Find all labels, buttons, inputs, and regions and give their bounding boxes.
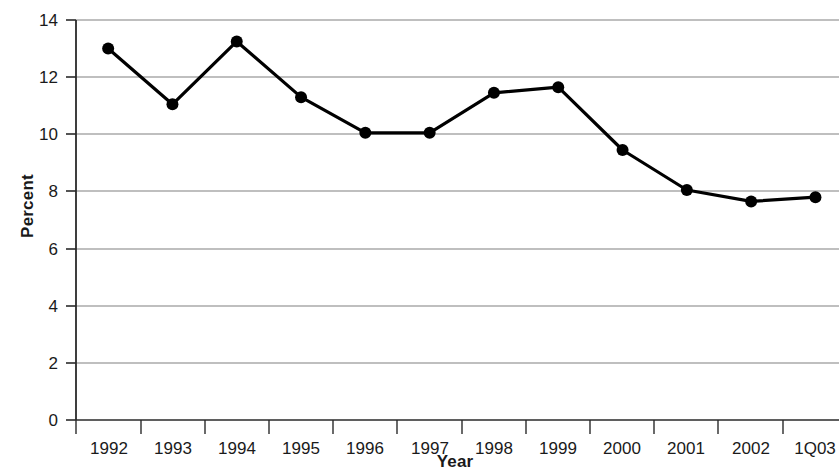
y-tick-label-2: 2 — [14, 355, 58, 372]
gridlines — [76, 20, 839, 363]
line-chart: 14 12 10 8 6 4 2 0 1992 1993 1994 1995 1… — [0, 0, 839, 476]
data-point — [552, 81, 564, 93]
x-tick-label-1992: 1992 — [74, 440, 144, 457]
x-tick-label-1993: 1993 — [138, 440, 208, 457]
data-point — [617, 144, 629, 156]
y-axis-title: Percent — [18, 161, 38, 251]
data-point — [295, 91, 307, 103]
data-point — [809, 191, 821, 203]
data-line-percent — [108, 41, 815, 201]
data-point — [102, 43, 114, 55]
axes — [76, 20, 839, 420]
x-tick-label-1999: 1999 — [523, 440, 593, 457]
x-tick-label-1995: 1995 — [266, 440, 336, 457]
x-axis-ticks — [76, 420, 783, 434]
data-point — [681, 184, 693, 196]
x-tick-label-1Q03: 1Q03 — [780, 440, 839, 457]
x-axis-title: Year — [410, 452, 500, 472]
y-tick-label-14: 14 — [14, 12, 58, 29]
y-tick-label-10: 10 — [14, 126, 58, 143]
data-point — [166, 98, 178, 110]
chart-canvas — [0, 0, 839, 476]
x-tick-label-1994: 1994 — [202, 440, 272, 457]
x-tick-label-2001: 2001 — [651, 440, 721, 457]
y-axis-ticks — [66, 20, 76, 420]
data-point — [231, 35, 243, 47]
data-point — [424, 127, 436, 139]
y-tick-label-12: 12 — [14, 69, 58, 86]
y-tick-label-0: 0 — [14, 412, 58, 429]
data-point — [745, 195, 757, 207]
x-tick-label-2002: 2002 — [716, 440, 786, 457]
data-point — [488, 87, 500, 99]
data-markers-percent — [102, 35, 821, 207]
y-tick-label-4: 4 — [14, 298, 58, 315]
x-tick-label-2000: 2000 — [587, 440, 657, 457]
x-tick-label-1996: 1996 — [330, 440, 400, 457]
data-point — [359, 127, 371, 139]
